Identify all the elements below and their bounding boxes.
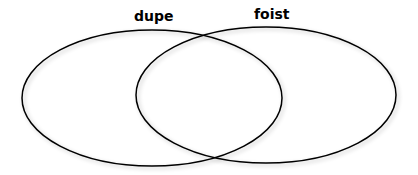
- set-foist-ellipse: [136, 27, 396, 163]
- venn-diagram: [0, 0, 418, 175]
- set-label-foist: foist: [254, 7, 290, 21]
- set-label-dupe: dupe: [134, 9, 174, 23]
- set-dupe-ellipse: [22, 30, 282, 166]
